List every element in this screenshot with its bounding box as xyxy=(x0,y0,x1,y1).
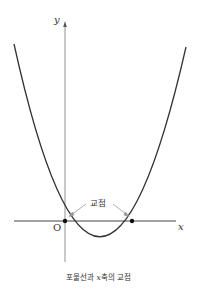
y-axis xyxy=(63,21,67,262)
figure-caption: 포물선과 x축의 교점 xyxy=(0,271,197,282)
intersection-point-second xyxy=(130,219,134,223)
arrow-right-icon xyxy=(124,212,129,217)
y-axis-label: y xyxy=(54,14,60,25)
caption-post: 축의 교점 xyxy=(101,273,131,282)
intersection-annotation-label: 교점 xyxy=(90,196,106,208)
parabola-diagram xyxy=(0,0,197,294)
y-axis-arrow-icon xyxy=(63,21,67,27)
caption-pre: 포물선과 xyxy=(66,273,96,282)
origin-label: O xyxy=(53,222,61,233)
x-axis-label: x xyxy=(178,221,184,232)
intersection-point-origin xyxy=(63,219,67,223)
